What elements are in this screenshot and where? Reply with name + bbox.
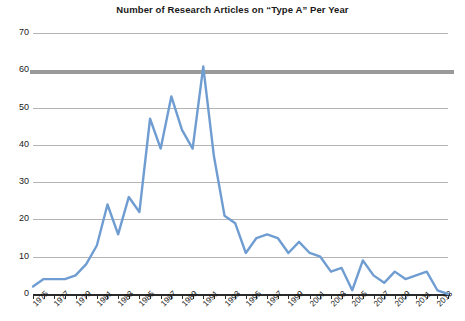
y-tick-label: 50 xyxy=(19,102,29,112)
y-tick-label: 70 xyxy=(19,27,29,37)
data-series-line xyxy=(33,33,448,294)
y-tick-label: 10 xyxy=(19,251,29,261)
plot-area: 010203040506070 197519771979198119831985… xyxy=(33,33,448,294)
y-tick-label: 60 xyxy=(19,64,29,74)
chart-title: Number of Research Articles on “Type A” … xyxy=(0,4,465,15)
y-tick-label: 20 xyxy=(19,213,29,223)
y-tick-label: 30 xyxy=(19,176,29,186)
chart-container: Number of Research Articles on “Type A” … xyxy=(0,0,465,321)
y-tick-label: 0 xyxy=(24,288,29,298)
y-tick-label: 40 xyxy=(19,139,29,149)
